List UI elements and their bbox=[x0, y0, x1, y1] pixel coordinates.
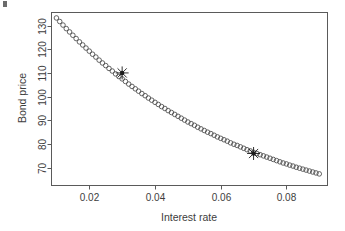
x-axis-ticks bbox=[90, 186, 287, 190]
y-tick-label: 90 bbox=[37, 115, 48, 127]
y-axis-tick-labels: 708090100110120130 bbox=[37, 18, 48, 174]
x-axis-title: Interest rate bbox=[161, 211, 217, 223]
y-tick-label: 120 bbox=[37, 41, 48, 58]
scan-artifact bbox=[3, 1, 7, 7]
x-axis-tick-labels: 0.020.040.060.08 bbox=[80, 192, 297, 203]
highlight-star-marker bbox=[116, 66, 129, 79]
y-tick-label: 70 bbox=[37, 163, 48, 175]
x-tick-label: 0.08 bbox=[277, 192, 297, 203]
chart-canvas: 708090100110120130 0.020.040.060.08 Bond… bbox=[0, 0, 345, 231]
plot-frame bbox=[52, 13, 328, 186]
data-point bbox=[136, 89, 141, 94]
highlight-star-marker bbox=[247, 147, 260, 160]
data-point bbox=[130, 84, 135, 89]
y-tick-label: 110 bbox=[37, 65, 48, 81]
y-tick-label: 130 bbox=[37, 18, 48, 35]
x-tick-label: 0.04 bbox=[146, 192, 166, 203]
y-tick-label: 100 bbox=[37, 89, 48, 106]
data-point-series bbox=[54, 16, 321, 177]
y-tick-label: 80 bbox=[37, 139, 48, 151]
x-tick-label: 0.02 bbox=[80, 192, 100, 203]
data-point bbox=[133, 87, 138, 92]
x-tick-label: 0.06 bbox=[212, 192, 232, 203]
y-axis-title: Bond price bbox=[16, 73, 28, 123]
bond-price-chart-figure: 708090100110120130 0.020.040.060.08 Bond… bbox=[0, 0, 345, 231]
data-point bbox=[126, 82, 131, 87]
